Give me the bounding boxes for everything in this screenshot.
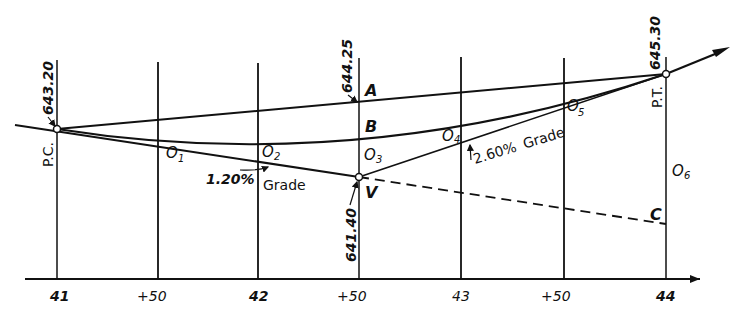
svg-text:2: 2 [274,151,280,162]
station-label-44: 44 [655,288,675,304]
station-label-43: 43 [452,288,470,304]
forward-tangent-extension [666,52,720,74]
svg-text:O: O [672,162,684,180]
station-label-41-50: +50 [137,288,167,304]
svg-text:O: O [364,146,376,164]
pc-elevation-pointer [48,117,55,126]
svg-text:O: O [442,127,454,145]
station-label-41: 41 [49,288,69,304]
forward-grade-label: 2.60% Grade [471,124,566,167]
extension-arrow-icon [712,47,730,57]
offset-3: O 3 [364,146,382,165]
point-c-label: C [650,205,662,224]
vertex-elevation: 641.40 [343,208,359,262]
vertex-point [356,174,363,181]
a-elevation: 644.25 [339,39,355,93]
back-grade-label: 1.20% Grade [206,167,306,193]
svg-text:1.20%: 1.20% [206,171,255,187]
diagram-canvas: 643.20 P.C. 644.25 641.40 645.30 P.T. A … [0,0,744,314]
svg-text:Grade: Grade [521,124,567,152]
svg-text:O: O [262,143,274,161]
point-a-label: A [363,81,377,100]
offset-2: O 2 [262,143,280,162]
station-label-43-50: +50 [541,288,571,304]
pt-elevation: 645.30 [647,16,663,70]
svg-text:3: 3 [376,154,382,165]
svg-text:1: 1 [178,153,184,164]
offset-6: O 6 [672,162,690,181]
vertex-elevation-pointer [350,182,357,205]
point-b-label: B [365,117,377,136]
svg-text:O: O [166,144,178,162]
pc-elevation: 643.20 [40,61,56,115]
back-tangent [15,125,359,177]
vertex-label: V [365,183,379,202]
baseline-arrow-icon [690,275,700,283]
pc-point [54,126,61,133]
svg-text:5: 5 [578,107,584,118]
pc-label: P.C. [40,142,56,167]
forward-grade-arrow-icon [470,145,471,160]
offset-1: O 1 [166,144,184,164]
svg-text:4: 4 [454,134,460,145]
station-label-42: 42 [248,288,268,304]
back-tangent-prolongation [359,177,666,224]
svg-text:6: 6 [684,170,690,181]
back-grade-arrow-icon [240,167,268,170]
offset-4: O 4 [442,127,460,145]
a-elevation-pointer [348,95,357,102]
svg-text:2.60%: 2.60% [471,139,518,167]
vertical-curve-diagram: 643.20 P.C. 644.25 641.40 645.30 P.T. A … [0,0,744,314]
pt-point [663,71,670,78]
pt-label: P.T. [649,86,665,108]
station-label-42-50: +50 [337,288,367,304]
svg-text:Grade: Grade [263,177,306,193]
